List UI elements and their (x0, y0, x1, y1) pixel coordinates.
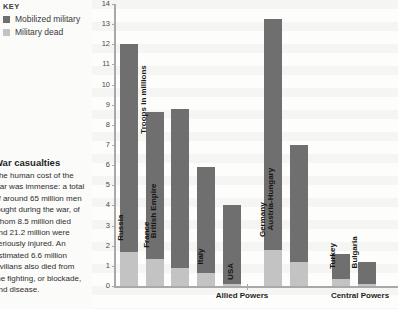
legend-item-mobilized-military: Mobilized military (3, 14, 90, 24)
bar-group[interactable] (264, 19, 282, 286)
legend-item-military-dead: Military dead (3, 27, 90, 37)
y-axis-tick-label: 1 (106, 261, 110, 270)
y-axis-tick-mark (112, 44, 116, 45)
article-body: The human cost of the war was immense: a… (0, 170, 86, 295)
bar-segment-military-dead[interactable] (264, 250, 282, 286)
y-axis-tick-label: 14 (102, 0, 110, 8)
bar-segment-mobilized-military[interactable] (264, 19, 282, 286)
x-axis-group-label: Allied Powers (216, 291, 268, 300)
plot-area: 01234567891011121314RussiaFranceBritish … (116, 4, 398, 286)
article-war-casualties: War casualties The human cost of the war… (0, 157, 86, 295)
bar-segment-military-dead[interactable] (223, 284, 241, 286)
bar-segment-mobilized-military[interactable] (358, 262, 376, 286)
x-axis-line (114, 286, 398, 288)
chart-legend: KEY Mobilized military Military dead (2, 2, 90, 40)
y-axis-tick-label: 6 (106, 160, 110, 169)
y-axis-tick-label: 0 (106, 281, 110, 290)
x-axis-group-label: Central Powers (331, 291, 389, 300)
y-axis-tick-mark (112, 185, 116, 186)
y-axis-tick-label: 2 (106, 241, 110, 250)
y-axis-tick-mark (112, 125, 116, 126)
bar-segment-military-dead[interactable] (358, 284, 376, 286)
bar-group[interactable] (146, 112, 164, 286)
bar-segment-military-dead[interactable] (171, 268, 189, 286)
y-axis-tick-mark (112, 165, 116, 166)
legend-item-label: Mobilized military (15, 14, 80, 24)
y-axis-tick-label: 12 (102, 39, 110, 48)
y-axis-tick-mark (112, 266, 116, 267)
y-axis-tick-label: 13 (102, 19, 110, 28)
y-axis-tick-mark (112, 226, 116, 227)
bar-segment-military-dead[interactable] (290, 262, 308, 286)
y-axis-tick-label: 9 (106, 100, 110, 109)
bar-group[interactable] (332, 254, 350, 286)
bar-segment-military-dead[interactable] (332, 279, 350, 286)
y-axis-tick-mark (112, 145, 116, 146)
dark-square-swatch (3, 16, 10, 23)
y-axis-title: Troops in millions (139, 45, 148, 155)
bar-group[interactable] (171, 109, 189, 286)
bar-group[interactable] (358, 262, 376, 286)
article-heading: War casualties (0, 157, 86, 168)
bar-group[interactable] (223, 205, 241, 286)
legend-item-label: Military dead (15, 27, 63, 37)
legend-title: KEY (3, 2, 90, 11)
light-square-swatch (3, 29, 10, 36)
bar-segment-military-dead[interactable] (197, 273, 215, 286)
bar-chart: Troops in millions 01234567891011121314R… (92, 0, 398, 309)
bar-segment-military-dead[interactable] (146, 259, 164, 286)
y-axis-tick-label: 3 (106, 221, 110, 230)
y-axis-tick-mark (112, 105, 116, 106)
y-axis-tick-mark (112, 85, 116, 86)
bar-segment-military-dead[interactable] (120, 252, 138, 286)
y-axis-tick-mark (112, 286, 116, 287)
bar-group[interactable] (290, 145, 308, 286)
bar-segment-mobilized-military[interactable] (120, 44, 138, 286)
y-axis-tick-label: 11 (102, 59, 110, 68)
y-axis-tick-mark (112, 246, 116, 247)
bar-segment-mobilized-military[interactable] (197, 167, 215, 286)
bar-group[interactable] (120, 44, 138, 286)
y-axis-tick-label: 10 (102, 80, 110, 89)
y-axis-tick-label: 8 (106, 120, 110, 129)
y-axis-tick-mark (112, 4, 116, 5)
y-axis-tick-mark (112, 205, 116, 206)
bar-group[interactable] (197, 167, 215, 286)
y-axis-tick-label: 4 (106, 200, 110, 209)
y-axis-tick-mark (112, 24, 116, 25)
left-column: KEY Mobilized military Military dead War… (0, 0, 92, 309)
bar-segment-mobilized-military[interactable] (223, 205, 241, 286)
y-axis-tick-mark (112, 64, 116, 65)
y-axis-tick-label: 7 (106, 140, 110, 149)
bar-segment-mobilized-military[interactable] (171, 109, 189, 286)
y-axis-tick-label: 5 (106, 180, 110, 189)
